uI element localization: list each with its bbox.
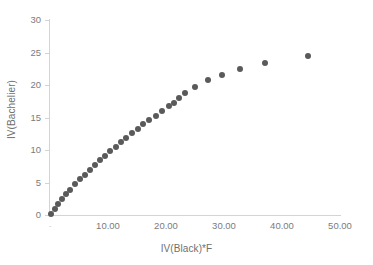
data-point — [82, 172, 88, 178]
scatter-chart: 051015202530 -10.0020.0030.0040.0050.00 … — [0, 0, 373, 265]
y-tick-label: 25 — [30, 48, 41, 58]
data-point — [153, 113, 159, 119]
data-point — [102, 153, 108, 159]
data-point — [262, 60, 268, 66]
data-point — [182, 90, 188, 96]
data-point — [67, 187, 73, 193]
data-point — [192, 84, 198, 90]
x-axis-line — [49, 215, 341, 216]
x-tick-label: 20.00 — [154, 220, 178, 231]
data-point — [237, 66, 243, 72]
y-axis-title: IV(Bachelier) — [6, 45, 17, 175]
y-tick-label: 20 — [30, 80, 41, 90]
y-tick-label: 10 — [30, 145, 41, 155]
data-point — [87, 167, 93, 173]
data-point — [113, 144, 119, 150]
data-point — [129, 130, 135, 136]
y-tick-label: 5 — [36, 178, 41, 188]
data-point — [135, 126, 141, 132]
x-tick-label: - — [49, 220, 52, 231]
y-tick-label: 15 — [30, 113, 41, 123]
x-tick-label: 50.00 — [328, 220, 352, 231]
x-tick-label: 30.00 — [212, 220, 236, 231]
data-point — [305, 53, 311, 59]
x-tick-label: 40.00 — [270, 220, 294, 231]
y-tick-label: 30 — [30, 15, 41, 25]
data-point — [77, 176, 83, 182]
data-point — [159, 108, 165, 114]
data-point — [52, 206, 58, 212]
data-point — [219, 72, 225, 78]
plot-area — [50, 20, 340, 215]
y-tick-label: 0 — [36, 210, 41, 220]
x-tick-label: 10.00 — [96, 220, 120, 231]
x-axis-title: IV(Black)*F — [0, 243, 373, 254]
